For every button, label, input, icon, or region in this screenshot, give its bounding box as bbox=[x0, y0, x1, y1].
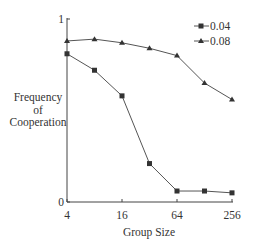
y-axis-label: FrequencyofCooperation bbox=[10, 91, 67, 129]
square-marker-icon bbox=[120, 93, 125, 98]
square-marker-icon bbox=[92, 68, 97, 73]
y-axis-label-line: Frequency bbox=[14, 91, 63, 104]
x-tick-label: 64 bbox=[171, 209, 183, 221]
triangle-marker-icon bbox=[229, 97, 235, 102]
legend-label: 0.08 bbox=[210, 35, 230, 47]
square-marker-icon bbox=[175, 189, 180, 194]
series-0.04 bbox=[65, 51, 235, 195]
legend-item: 0.08 bbox=[194, 35, 230, 47]
square-marker-icon bbox=[199, 24, 204, 29]
y-axis-label-line: Cooperation bbox=[10, 116, 67, 129]
y-tick-label: 0 bbox=[58, 196, 64, 208]
square-marker-icon bbox=[230, 190, 235, 195]
chart: 0141664256 0.040.08 Group Size Frequency… bbox=[0, 0, 253, 249]
x-axis-label: Group Size bbox=[123, 226, 175, 239]
triangle-marker-icon bbox=[92, 36, 98, 41]
y-axis-label-line: of bbox=[33, 104, 43, 116]
series-line bbox=[67, 54, 232, 193]
square-marker-icon bbox=[147, 161, 152, 166]
square-marker-icon bbox=[202, 189, 207, 194]
legend: 0.040.08 bbox=[194, 20, 230, 47]
series-group bbox=[64, 36, 235, 195]
legend-label: 0.04 bbox=[210, 20, 230, 32]
square-marker-icon bbox=[65, 51, 70, 56]
x-tick-label: 16 bbox=[116, 209, 128, 221]
y-tick-label: 1 bbox=[58, 13, 64, 25]
legend-item: 0.04 bbox=[194, 20, 230, 32]
x-tick-label: 4 bbox=[64, 209, 70, 221]
x-tick-label: 256 bbox=[223, 209, 241, 221]
